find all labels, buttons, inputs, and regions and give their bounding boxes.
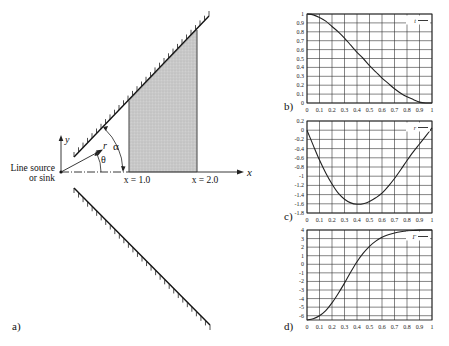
x-tick-label: 0.4 [353, 217, 361, 223]
x-tick-label: 0.9 [416, 107, 424, 113]
y-tick-label: -0.2 [295, 136, 305, 142]
alpha-label: α [113, 140, 119, 152]
source-label-line1: Line source [10, 163, 55, 173]
x-tick-label: 1 [431, 107, 434, 113]
x-axis-arrow-icon [237, 170, 244, 175]
x-tick-label: 0.1 [316, 324, 324, 330]
x-tick-label: 0.1 [316, 107, 324, 113]
x-tick-label: 0.8 [403, 217, 411, 223]
theta-label: θ [101, 154, 106, 165]
source-label-line2: or sink [29, 173, 55, 183]
y-axis-arrow-icon [59, 135, 64, 141]
x-tick-label: 0.8 [403, 107, 411, 113]
panel-d-label: d) [284, 320, 294, 333]
legend-box [406, 16, 430, 25]
x-tick-label: 1 [431, 324, 434, 330]
x-tick-label: 0.3 [341, 324, 349, 330]
y-tick-label: 0.7 [297, 38, 305, 44]
y-tick-label: 1 [301, 253, 304, 259]
x-tick-label: 0.4 [353, 324, 361, 330]
y-tick-label: -0.8 [295, 164, 305, 170]
y-axis-label: y [64, 134, 70, 145]
x-tick-label: 0.9 [416, 217, 424, 223]
y-tick-label: 0.6 [297, 47, 305, 53]
y-tick-label: -4 [299, 296, 304, 302]
chart-d-gamma: 00.10.20.30.40.50.60.70.80.9143210-1-2-3… [299, 227, 434, 330]
x-axis-label: x [246, 166, 252, 178]
y-tick-label: -6 [299, 313, 304, 319]
r-label: r [103, 140, 107, 151]
x-tick-label: 0.2 [328, 107, 336, 113]
x2-label: x = 2.0 [192, 175, 219, 185]
y-tick-label: 0.4 [297, 64, 305, 70]
x-tick-label: 0.2 [328, 217, 336, 223]
x-tick-label: 0.3 [341, 107, 349, 113]
x-tick-label: 0.6 [378, 217, 386, 223]
y-tick-label: 0 [301, 100, 304, 106]
y-tick-label: -0.6 [295, 155, 305, 161]
y-tick-label: -0.4 [295, 146, 305, 152]
y-tick-label: 0 [301, 261, 304, 267]
x-tick-label: 0.6 [378, 107, 386, 113]
x-tick-label: 1 [431, 217, 434, 223]
chart-b-t: 00.10.20.30.40.50.60.70.80.9100.10.20.30… [297, 11, 434, 113]
panel-c-label: c) [284, 210, 293, 223]
y-tick-label: 0.8 [297, 29, 305, 35]
y-tick-label: 0 [301, 127, 304, 133]
y-tick-label: 2 [301, 244, 304, 250]
y-tick-label: -1.6 [295, 201, 305, 207]
x-tick-label: 0.8 [403, 324, 411, 330]
x-tick-label: 0 [306, 107, 309, 113]
legend-label: Γ [412, 234, 417, 240]
x-tick-label: 0 [306, 217, 309, 223]
x-tick-label: 0.7 [391, 324, 399, 330]
x-tick-label: 0.3 [341, 217, 349, 223]
y-tick-label: 4 [301, 227, 304, 233]
legend-box [406, 232, 430, 241]
x-tick-label: 0.2 [328, 324, 336, 330]
x-tick-label: 0.4 [353, 107, 361, 113]
y-tick-label: 0.3 [297, 73, 305, 79]
y-tick-label: -2 [299, 278, 304, 284]
legend-box [406, 123, 430, 132]
panel-a-label: a) [12, 320, 21, 333]
figure-canvas: Line source or sink y x r θ α x = 1.0 x … [0, 0, 449, 346]
x-tick-label: 0 [306, 324, 309, 330]
y-tick-label: 0.2 [297, 118, 305, 124]
x-tick-label: 0.6 [378, 324, 386, 330]
panel-a-diagram: Line source or sink y x r θ α x = 1.0 x … [10, 11, 252, 333]
chart-c-r: 00.10.20.30.40.50.60.70.80.910.20-0.2-0.… [295, 118, 434, 223]
alpha-arrow-icon [121, 166, 126, 172]
r-vector [61, 151, 100, 172]
y-tick-label: 0.5 [297, 56, 305, 62]
x-tick-label: 0.5 [366, 217, 374, 223]
x-tick-label: 0.5 [366, 107, 374, 113]
x-tick-label: 0.7 [391, 217, 399, 223]
x-tick-label: 0.9 [416, 324, 424, 330]
y-tick-label: -1 [299, 270, 304, 276]
x-tick-label: 0.1 [316, 217, 324, 223]
x-tick-label: 0.7 [391, 107, 399, 113]
y-tick-label: 0.1 [297, 91, 305, 97]
y-tick-label: -1.8 [295, 210, 305, 216]
shaded-region [129, 30, 197, 172]
y-tick-label: -1.4 [295, 192, 305, 198]
x-tick-label: 0.5 [366, 324, 374, 330]
y-tick-label: 0.9 [297, 20, 305, 26]
y-tick-label: -3 [299, 287, 304, 293]
y-tick-label: -1 [299, 173, 304, 179]
y-tick-label: 0.2 [297, 82, 305, 88]
y-tick-label: -1.2 [295, 182, 305, 188]
y-tick-label: 3 [301, 236, 304, 242]
y-tick-label: 1 [301, 11, 304, 17]
x1-label: x = 1.0 [124, 175, 151, 185]
y-tick-label: -5 [299, 304, 304, 310]
panel-b-label: b) [284, 100, 294, 113]
